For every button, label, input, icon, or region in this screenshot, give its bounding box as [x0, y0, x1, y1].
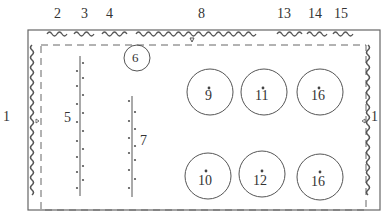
label-14: 14: [308, 7, 322, 21]
circle-label-10: 10: [198, 174, 212, 188]
right-hedge: [367, 45, 370, 195]
hedge-3: [74, 32, 94, 36]
label-4: 4: [106, 7, 113, 21]
label-15: 15: [334, 7, 348, 21]
label-3: 3: [81, 7, 88, 21]
hedge-4: [102, 32, 127, 36]
label-13: 13: [277, 7, 291, 21]
circle-label-16-top: 16: [311, 89, 325, 103]
left-marker-icon: [36, 119, 39, 123]
label-1-left: 1: [3, 110, 10, 124]
right-marker-icon: [362, 119, 365, 123]
circle-label-12: 12: [253, 174, 267, 188]
hedge-8: [136, 32, 256, 36]
label-1-right: 1: [371, 110, 378, 124]
hedge-13: [277, 32, 302, 36]
label-5: 5: [64, 111, 71, 125]
label-6: 6: [132, 51, 139, 65]
planting-row-5: [76, 56, 84, 196]
label-8: 8: [198, 7, 205, 21]
circle-label-11: 11: [255, 89, 268, 103]
label-2: 2: [54, 7, 61, 21]
label-7: 7: [140, 134, 147, 148]
top-hedges: [47, 32, 353, 36]
marker-triangle-icon: [190, 38, 194, 42]
circle-label-16-bottom: 16: [311, 175, 325, 189]
circle-label-9: 9: [205, 89, 212, 103]
hedge-14: [307, 32, 327, 36]
hedge-2: [47, 32, 67, 36]
hedge-15: [333, 32, 353, 36]
left-hedge: [31, 45, 34, 195]
planting-row-7: [128, 96, 136, 197]
